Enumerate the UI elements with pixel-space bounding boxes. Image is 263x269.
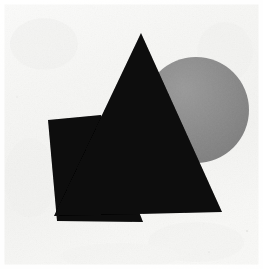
paper-grain-overlay	[0, 0, 263, 269]
artwork-canvas: Abstract Suprematist Composition	[0, 0, 263, 269]
composition-svg	[0, 0, 263, 269]
